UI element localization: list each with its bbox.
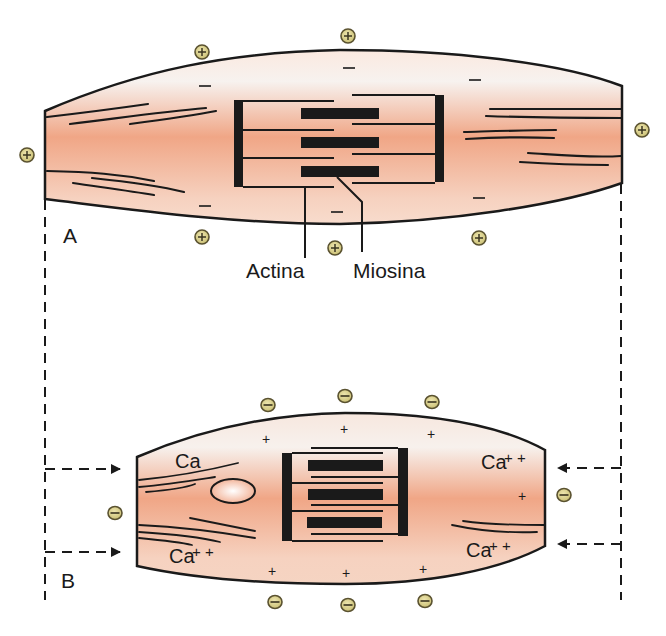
negative-charge-icon: [268, 596, 282, 609]
negative-charge-icon: [338, 390, 352, 403]
panel-a-label: A: [63, 224, 77, 247]
panel-b-label: B: [61, 569, 75, 592]
calcium-charge-bottom-left: + +: [192, 543, 214, 560]
svg-text:+: +: [340, 421, 348, 437]
negative-charge-icon: [418, 595, 432, 608]
myosin-filaments: [307, 460, 383, 528]
panel-b: + + + + + + + Ca Ca + + Ca + + Ca + +: [61, 390, 571, 612]
negative-charge-icon: [261, 399, 275, 412]
positive-charge-icon: [328, 241, 342, 255]
muscle-contraction-diagram: A Actina Miosina: [0, 0, 666, 636]
actin-label: Actina: [246, 259, 305, 282]
z-disc-right: [435, 95, 444, 182]
negative-charge-icon: [557, 489, 571, 502]
positive-charge-icon: [635, 123, 649, 137]
negative-charge-icon: [108, 507, 122, 520]
positive-charge-icon: [341, 29, 355, 43]
svg-text:+: +: [427, 426, 435, 442]
myosin-label: Miosina: [353, 259, 426, 282]
calcium-charge-bottom-right: + +: [489, 537, 511, 554]
svg-text:+: +: [518, 488, 526, 504]
calcium-charge-top-right: + +: [504, 449, 526, 466]
calcium-label-top-left: Ca: [175, 450, 201, 472]
positive-charge-icon: [195, 230, 209, 244]
negative-charge-icon: [341, 599, 355, 612]
negative-charge-icon: [425, 396, 439, 409]
cell-nucleus: [211, 479, 255, 503]
positive-charge-icon: [195, 45, 209, 59]
myosin-filaments: [301, 108, 379, 177]
positive-charge-icon: [20, 148, 34, 162]
svg-text:+: +: [268, 563, 276, 579]
svg-text:+: +: [342, 565, 350, 581]
positive-charge-icon: [472, 231, 486, 245]
panel-a: A Actina Miosina: [20, 29, 649, 282]
svg-text:+: +: [419, 561, 427, 577]
svg-text:+: +: [262, 431, 270, 447]
z-disc-right: [398, 448, 408, 536]
z-disc-left: [282, 453, 292, 541]
z-disc-left: [234, 100, 243, 187]
